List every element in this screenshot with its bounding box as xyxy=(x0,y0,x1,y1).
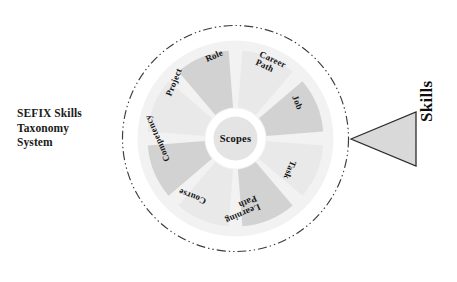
diagram-canvas: SEFIX Skills Taxonomy System CareerPathJ… xyxy=(0,0,457,282)
arrow-graphic xyxy=(348,108,420,170)
wheel-graphic xyxy=(111,14,360,263)
skills-label: Skills xyxy=(416,42,438,122)
skills-arrow xyxy=(348,108,420,170)
hub-disc xyxy=(214,117,258,161)
skills-wheel: CareerPathJobTaskLearningPathCourseCompe… xyxy=(111,14,360,263)
arrow-triangle-icon xyxy=(351,112,416,166)
